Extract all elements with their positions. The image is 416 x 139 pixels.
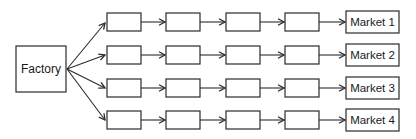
stage-box	[166, 46, 200, 64]
market-label: Market 1	[350, 16, 395, 28]
stage-box	[107, 79, 141, 97]
chain-row-4: Market 4	[107, 109, 399, 131]
stage-box	[107, 13, 141, 31]
flow-arrow	[67, 69, 105, 88]
stage-box	[107, 111, 141, 129]
market-node-2: Market 2	[346, 44, 399, 66]
stage-box	[107, 46, 141, 64]
market-node-3: Market 3	[346, 77, 399, 99]
stage-box	[226, 46, 260, 64]
stage-box	[285, 79, 319, 97]
diagram-canvas: Factory Market 1 Market 2	[0, 0, 416, 139]
chain-row-3: Market 3	[107, 77, 399, 99]
chain-row-1: Market 1	[107, 11, 399, 33]
stage-box	[226, 13, 260, 31]
stage-box	[285, 111, 319, 129]
market-label: Market 4	[350, 114, 395, 126]
stage-box	[285, 46, 319, 64]
market-node-4: Market 4	[346, 109, 399, 131]
stage-box	[226, 79, 260, 97]
market-label: Market 3	[350, 82, 395, 94]
stage-box	[166, 13, 200, 31]
market-node-1: Market 1	[346, 11, 399, 33]
fanout-arrows	[67, 23, 105, 120]
factory-label: Factory	[21, 62, 61, 76]
stage-box	[166, 111, 200, 129]
stage-box	[285, 13, 319, 31]
stage-box	[166, 79, 200, 97]
factory-node: Factory	[16, 46, 66, 92]
chain-row-2: Market 2	[107, 44, 399, 66]
factory-markets-diagram: Factory Market 1 Market 2	[0, 0, 416, 139]
flow-arrow	[67, 69, 105, 120]
market-label: Market 2	[350, 49, 395, 61]
stage-box	[226, 111, 260, 129]
